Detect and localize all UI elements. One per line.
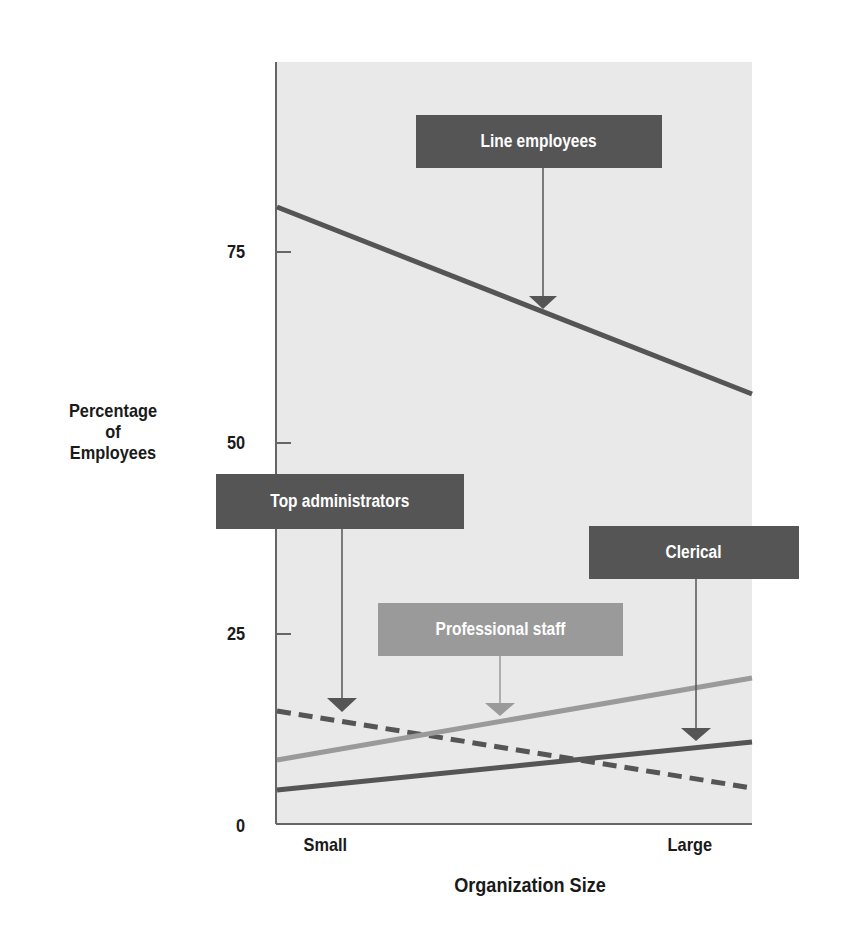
callout-clerical: Clerical [589,526,799,579]
callout-clerical-text: Clerical [666,542,722,563]
y-tick-label-0: 0 [211,815,245,837]
callout-top-administrators-text: Top administrators [270,491,409,512]
callout-professional-staff: Professional staff [378,603,623,656]
clerical-arrowhead-icon [681,728,711,741]
callout-line-employees: Line employees [416,115,662,168]
callout-top-administrators: Top administrators [216,474,464,529]
y-tick-label-25: 25 [211,623,245,645]
line-employees-line [277,207,752,394]
professional-staff-arrowhead-icon [485,703,515,716]
callout-professional-staff-text: Professional staff [436,619,566,640]
y-tick-label-75: 75 [211,241,245,263]
callout-line-employees-text: Line employees [481,131,597,152]
x-tick-label-small: Small [304,834,348,856]
y-axis-title: Percentage of Employees [57,400,169,463]
top-administrators-arrowhead-icon [327,698,357,712]
y-tick-label-50: 50 [211,432,245,454]
x-axis-title: Organization Size [384,873,676,897]
x-tick-label-large: Large [668,834,713,856]
